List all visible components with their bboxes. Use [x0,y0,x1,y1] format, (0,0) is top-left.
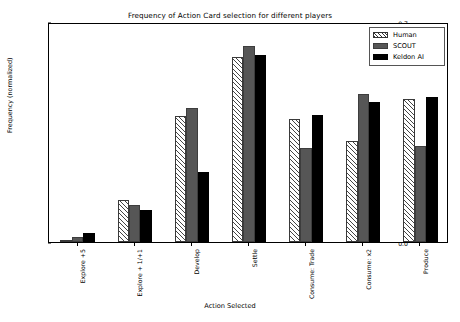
bar-scout-1 [129,205,140,242]
legend-label: Keldon AI [393,53,424,61]
x-tick-mark [77,243,78,246]
legend-swatch-keldon [373,54,388,61]
bar-scout-6 [415,146,426,242]
chart-title: Frequency of Action Card selection for d… [0,11,460,20]
x-tick-mark [362,243,363,246]
legend-label: SCOUT [393,42,416,50]
legend-label: Human [393,31,417,39]
x-tick-label: Develop [193,249,200,274]
bar-human-6 [403,99,414,242]
x-tick-mark [191,243,192,246]
bar-scout-3 [243,46,254,242]
bar-keldon-2 [198,172,209,242]
bar-human-2 [175,116,186,242]
x-axis-label: Action Selected [0,302,460,310]
x-tick-label: Produce [422,249,429,274]
legend-entry-0: Human [373,30,441,40]
x-tick-label: Consume: Trade [308,249,315,299]
bar-human-1 [118,200,129,242]
bar-keldon-5 [369,102,380,242]
bar-scout-5 [358,94,369,242]
bar-human-0 [60,240,71,242]
x-tick-label: Consume: x2 [365,249,372,290]
chart-legend: HumanSCOUTKeldon AI [369,27,445,66]
bar-keldon-1 [140,210,151,242]
x-tick-mark [248,243,249,246]
bar-human-5 [346,141,357,242]
legend-swatch-scout [373,43,388,50]
figure-canvas: Frequency of Action Card selection for d… [0,0,460,322]
bar-scout-0 [72,237,83,242]
x-tick-mark [134,243,135,246]
bar-keldon-3 [255,55,266,242]
bar-keldon-6 [426,97,437,243]
x-tick-label: Settle [251,249,258,267]
bar-scout-4 [300,148,311,242]
legend-swatch-human [373,32,388,39]
bar-human-4 [289,119,300,243]
x-tick-mark [305,243,306,246]
legend-entry-1: SCOUT [373,41,441,51]
x-tick-label: Explore +5 [79,249,86,283]
x-tick-label: Explore + 1/+1 [136,249,143,296]
bar-human-3 [232,57,243,242]
legend-entry-2: Keldon AI [373,52,441,62]
bar-keldon-4 [312,115,323,242]
bar-keldon-0 [83,233,94,242]
y-axis-label: Frequency (normalized) [6,57,14,133]
bar-scout-2 [186,108,197,242]
x-tick-mark [419,243,420,246]
